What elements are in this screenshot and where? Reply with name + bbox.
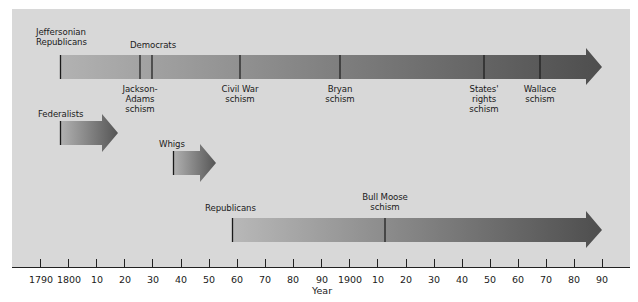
tick	[209, 259, 210, 268]
tick-label: 20	[119, 275, 131, 285]
label-civil-war-schism: Civil War schism	[212, 84, 268, 104]
label-wallace-schism: Wallace schism	[517, 84, 563, 104]
tick-label: 30	[428, 275, 440, 285]
tick	[349, 259, 350, 268]
tick	[490, 259, 491, 268]
tick-label: 90	[596, 275, 608, 285]
tick-label: 90	[316, 275, 328, 285]
tick	[546, 259, 547, 268]
tick-label: 20	[400, 275, 412, 285]
x-axis-title: Year	[312, 285, 332, 296]
tick-label: 1790	[29, 275, 53, 285]
tick-label: 60	[231, 275, 243, 285]
tick-label: 70	[540, 275, 552, 285]
tick-label: 40	[175, 275, 187, 285]
tick	[377, 259, 378, 268]
republicans-arrow	[232, 211, 602, 248]
label-bryan-schism: Bryan schism	[318, 84, 362, 104]
tick-label: 60	[512, 275, 524, 285]
label-republicans: Republicans	[205, 203, 256, 213]
label-jeffersonian-republicans: Jeffersonian Republicans	[36, 27, 87, 47]
tick-label: 10	[91, 275, 103, 285]
tick	[321, 259, 322, 268]
label-federalists: Federalists	[38, 109, 83, 119]
tick-label: 50	[484, 275, 496, 285]
tick-label: 1900	[338, 275, 362, 285]
tick-label: 50	[203, 275, 215, 285]
tick	[293, 259, 294, 268]
label-jackson-adams-schism: Jackson- Adams schism	[115, 84, 165, 114]
tick	[406, 259, 407, 268]
tick	[434, 259, 435, 268]
tick-label: 80	[568, 275, 580, 285]
tick	[237, 259, 238, 268]
label-democrats: Democrats	[130, 40, 176, 50]
label-states-rights-schism: States' rights schism	[462, 84, 506, 114]
tick-label: 70	[259, 275, 271, 285]
timeline-bars	[0, 0, 638, 302]
democrats-arrow	[60, 48, 602, 85]
label-bull-moose-schism: Bull Moose schism	[355, 192, 415, 212]
whigs-arrow	[173, 144, 216, 182]
tick	[152, 259, 153, 268]
tick-label: 40	[456, 275, 468, 285]
tick	[602, 259, 603, 268]
tick-label: 30	[147, 275, 159, 285]
tick	[96, 259, 97, 268]
tick-label: 80	[287, 275, 299, 285]
tick	[124, 259, 125, 268]
tick	[181, 259, 182, 268]
federalists-arrow	[60, 114, 118, 152]
party-timeline-chart: Jeffersonian Republicans Democrats Jacks…	[0, 0, 638, 302]
tick	[574, 259, 575, 268]
tick	[40, 259, 41, 268]
tick	[518, 259, 519, 268]
tick-label: 1800	[57, 275, 81, 285]
tick	[68, 259, 69, 268]
tick	[462, 259, 463, 268]
tick	[265, 259, 266, 268]
tick-label: 10	[372, 275, 384, 285]
label-whigs: Whigs	[159, 139, 185, 149]
